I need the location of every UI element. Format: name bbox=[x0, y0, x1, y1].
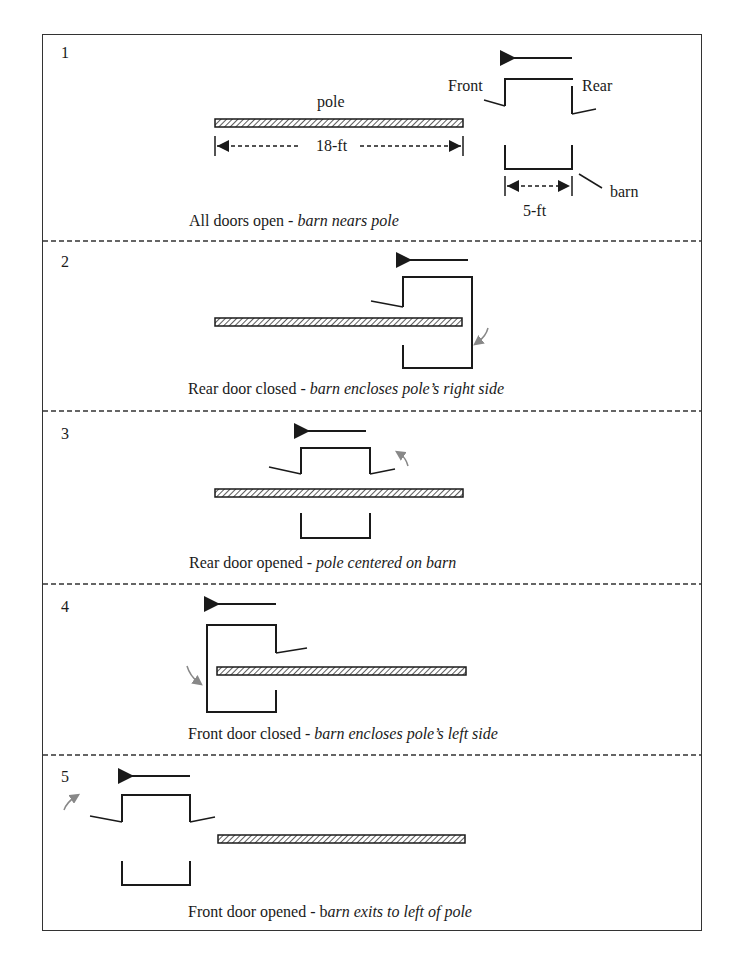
caption-italic: arn exits to left of pole bbox=[328, 903, 472, 920]
pole-label: pole bbox=[317, 94, 345, 110]
barn-label: barn bbox=[610, 184, 638, 200]
caption-plain: Rear door opened - bbox=[189, 554, 316, 571]
panel-2 bbox=[215, 260, 488, 368]
pole bbox=[215, 318, 462, 326]
panel-number-3: 3 bbox=[61, 426, 69, 442]
caption-italic: pole centered on barn bbox=[316, 554, 456, 571]
barn bbox=[484, 79, 602, 188]
door-closing-arrow-icon bbox=[478, 328, 488, 342]
caption-plain: Front door opened - b bbox=[188, 903, 328, 920]
caption-italic: barn encloses pole’s left side bbox=[314, 725, 498, 742]
door-closing-arrow-icon bbox=[187, 666, 198, 682]
barn-length-label: 5-ft bbox=[523, 203, 546, 219]
front-door-label: Front bbox=[448, 78, 483, 94]
caption-plain: Front door closed - bbox=[188, 725, 314, 742]
barn-length-dimension bbox=[505, 176, 572, 196]
panel-number-1: 1 bbox=[61, 45, 69, 61]
panel-number-4: 4 bbox=[61, 599, 69, 615]
pole-barn-diagram bbox=[0, 0, 736, 964]
caption-italic: barn nears pole bbox=[297, 212, 398, 229]
panel-3 bbox=[215, 431, 463, 538]
caption-italic: barn encloses pole’s right side bbox=[310, 380, 504, 397]
barn bbox=[90, 795, 215, 885]
pole bbox=[215, 119, 463, 127]
panel-number-2: 2 bbox=[61, 254, 69, 270]
pole bbox=[217, 667, 466, 675]
panel-3-caption: Rear door opened - pole centered on barn bbox=[189, 555, 456, 571]
panel-2-caption: Rear door closed - barn encloses pole’s … bbox=[188, 381, 504, 397]
caption-plain: All doors open - bbox=[189, 212, 297, 229]
pole bbox=[215, 489, 463, 497]
panel-4-caption: Front door closed - barn encloses pole’s… bbox=[188, 726, 498, 742]
pole bbox=[218, 835, 465, 843]
panel-number-5: 5 bbox=[61, 769, 69, 785]
rear-door-label: Rear bbox=[582, 78, 612, 94]
pole-length-label: 18-ft bbox=[314, 138, 349, 154]
door-opening-arrow-icon bbox=[400, 454, 408, 466]
door-opening-arrow-icon bbox=[64, 797, 75, 810]
panel-1 bbox=[215, 58, 602, 196]
panel-1-caption: All doors open - barn nears pole bbox=[189, 213, 399, 229]
panel-5 bbox=[64, 776, 465, 885]
panel-5-caption: Front door opened - barn exits to left o… bbox=[188, 904, 472, 920]
caption-plain: Rear door closed - bbox=[188, 380, 310, 397]
panel-4 bbox=[187, 604, 466, 712]
